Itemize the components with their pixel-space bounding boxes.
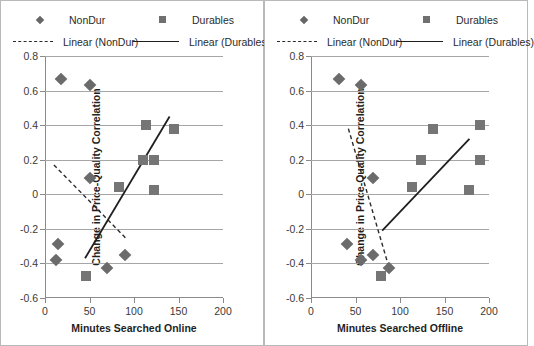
x-axis-tick xyxy=(489,298,490,303)
legend-entry-durables: Durables xyxy=(151,14,234,26)
legend-entry-linear-nondur: Linear (NonDur) xyxy=(277,36,402,48)
x-axis-tick xyxy=(445,298,446,303)
legend-entry-nondur: NonDur xyxy=(29,14,105,26)
y-axis-tick-label: 0.4 xyxy=(289,119,304,131)
legend-row-markers: NonDur Durables xyxy=(265,9,527,30)
y-axis-tick xyxy=(306,91,311,92)
y-axis-tick xyxy=(40,56,45,57)
y-axis-tick xyxy=(40,160,45,161)
x-axis-title: Minutes Searched Online xyxy=(45,322,223,334)
legend-entry-durables: Durables xyxy=(415,14,498,26)
data-point-nondur xyxy=(55,73,68,86)
legend-label-durables: Durables xyxy=(192,14,234,26)
panel-offline: NonDur Durables Linear (NonDur) Linear (… xyxy=(264,0,528,346)
x-axis-tick-label: 0 xyxy=(42,305,48,317)
legend-label-linear-nondur: Linear (NonDur) xyxy=(327,36,402,48)
y-axis-tick xyxy=(306,194,311,195)
y-axis-tick xyxy=(306,125,311,126)
data-point-durables xyxy=(169,124,179,134)
data-point-nondur xyxy=(52,238,65,251)
legend-label-linear-durables: Linear (Durables) xyxy=(189,36,270,48)
y-axis-tick-label: 0.4 xyxy=(23,119,38,131)
gridline-y xyxy=(311,125,489,126)
data-point-durables xyxy=(138,155,148,165)
gridline-y xyxy=(45,56,223,57)
x-axis-tick-label: 150 xyxy=(170,305,188,317)
y-axis-tick-label: -0.4 xyxy=(286,257,304,269)
data-point-durables xyxy=(114,182,124,192)
y-axis-tick xyxy=(306,56,311,57)
x-axis-tick xyxy=(356,298,357,303)
x-axis-tick xyxy=(400,298,401,303)
legend-online: NonDur Durables Linear (NonDur) Linear (… xyxy=(1,7,263,53)
y-axis-tick-label: 0 xyxy=(298,188,304,200)
x-axis-tick-label: 50 xyxy=(350,305,362,317)
trendline-layer xyxy=(45,56,223,298)
data-point-durables xyxy=(475,120,485,130)
legend-label-durables: Durables xyxy=(456,14,498,26)
y-axis-tick xyxy=(40,125,45,126)
plot-area-online: Change in Price-Quality Correlation Minu… xyxy=(45,56,223,298)
gridline-y xyxy=(45,263,223,264)
y-axis-tick-label: 0.8 xyxy=(23,50,38,62)
legend-offline: NonDur Durables Linear (NonDur) Linear (… xyxy=(265,7,527,53)
x-axis-tick-label: 50 xyxy=(84,305,96,317)
gridline-y xyxy=(311,194,489,195)
solid-line-icon xyxy=(397,41,443,42)
gridline-y xyxy=(45,91,223,92)
gridline-y xyxy=(45,229,223,230)
x-axis-title: Minutes Searched Offline xyxy=(311,322,489,334)
data-point-nondur xyxy=(49,254,62,267)
data-point-durables xyxy=(141,120,151,130)
gridline-y xyxy=(311,56,489,57)
data-point-durables xyxy=(407,182,417,192)
y-axis-tick xyxy=(306,263,311,264)
y-axis-tick-label: -0.2 xyxy=(20,223,38,235)
legend-row-trendlines: Linear (NonDur) Linear (Durables) xyxy=(1,31,263,52)
gridline-y xyxy=(45,125,223,126)
x-axis-tick-label: 200 xyxy=(214,305,232,317)
y-axis-tick-label: -0.2 xyxy=(286,223,304,235)
x-axis-tick xyxy=(311,298,312,303)
legend-row-markers: NonDur Durables xyxy=(1,9,263,30)
gridline-y xyxy=(45,160,223,161)
data-point-durables xyxy=(464,185,474,195)
x-axis-tick-label: 200 xyxy=(480,305,498,317)
y-axis-tick-label: 0.6 xyxy=(23,85,38,97)
x-axis-tick xyxy=(223,298,224,303)
legend-label-nondur: NonDur xyxy=(333,14,369,26)
data-point-nondur xyxy=(341,238,354,251)
legend-label-linear-nondur: Linear (NonDur) xyxy=(63,36,138,48)
x-axis-tick-label: 0 xyxy=(308,305,314,317)
plot-area-offline: Change in Price-Quality Correlation Minu… xyxy=(311,56,489,298)
x-axis-tick-label: 100 xyxy=(125,305,143,317)
y-axis-line xyxy=(45,56,46,298)
data-point-durables xyxy=(475,155,485,165)
legend-entry-linear-durables: Linear (Durables) xyxy=(397,36,534,48)
y-axis-line xyxy=(311,56,312,298)
x-axis-tick xyxy=(179,298,180,303)
y-axis-tick-label: -0.4 xyxy=(20,257,38,269)
data-point-nondur xyxy=(367,171,380,184)
square-marker-icon xyxy=(423,16,430,23)
y-axis-tick xyxy=(40,263,45,264)
gridline-y xyxy=(311,160,489,161)
y-axis-tick xyxy=(40,194,45,195)
x-axis-tick xyxy=(45,298,46,303)
square-marker-icon xyxy=(159,16,166,23)
legend-entry-linear-durables: Linear (Durables) xyxy=(133,36,270,48)
legend-row-trendlines: Linear (NonDur) Linear (Durables) xyxy=(265,31,527,52)
legend-entry-linear-nondur: Linear (NonDur) xyxy=(13,36,138,48)
solid-line-icon xyxy=(133,41,179,42)
y-axis-title: Change in Price-Quality Correlation xyxy=(354,88,366,265)
y-axis-tick-label: -0.6 xyxy=(286,292,304,304)
y-axis-tick-label: 0.6 xyxy=(289,85,304,97)
legend-entry-nondur: NonDur xyxy=(293,14,369,26)
y-axis-tick xyxy=(306,160,311,161)
y-axis-tick xyxy=(306,229,311,230)
data-point-nondur xyxy=(367,248,380,261)
panel-online: NonDur Durables Linear (NonDur) Linear (… xyxy=(0,0,264,346)
gridline-y xyxy=(45,194,223,195)
data-point-durables xyxy=(428,124,438,134)
y-axis-tick-label: 0.2 xyxy=(289,154,304,166)
